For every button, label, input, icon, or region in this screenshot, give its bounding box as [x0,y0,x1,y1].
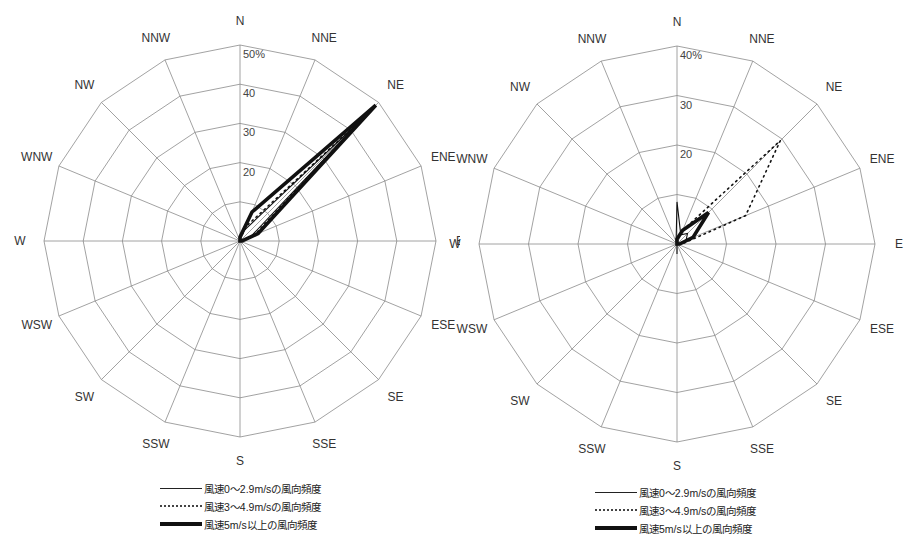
legend-item-low-speed: 風速0～2.9m/sの風向頻度 [595,483,756,501]
dotted-line-swatch [160,505,202,507]
grid-spoke [537,104,677,244]
direction-label: ENE [870,152,895,166]
grid-spoke [494,244,677,320]
grid-spoke [537,244,677,384]
grid-spoke [677,244,860,320]
grid-spoke [494,168,677,244]
thick-line-swatch [160,522,202,526]
thick-line-swatch [595,526,637,530]
legend-left: 風速0～2.9m/sの風向頻度 風速3～4.9m/sの風向頻度 風速5m/s以上… [160,479,321,533]
direction-label: SW [510,394,530,408]
grid-spoke [601,244,677,427]
grid-spoke [677,168,860,244]
legend-item-low-speed: 風速0～2.9m/sの風向頻度 [160,479,321,497]
direction-label: WNW [456,152,488,166]
direction-label: SSW [578,442,606,456]
legend-item-mid-speed: 風速3～4.9m/sの風向頻度 [160,497,321,515]
solid-line-swatch [595,492,637,493]
legend-label: 風速0～2.9m/sの風向頻度 [639,485,756,500]
radial-tick-label: 40% [680,49,702,61]
legend-label: 風速3～4.9m/sの風向頻度 [639,503,756,518]
dotted-line-swatch [595,509,637,511]
direction-label: NE [826,80,843,94]
grid-spoke [677,104,817,244]
legend-item-high-speed: 風速5m/s以上の風向頻度 [595,519,756,537]
grid-spoke [677,244,753,427]
direction-label: S [673,459,681,470]
direction-label: W [449,237,461,251]
direction-label: NW [510,80,531,94]
legend-item-mid-speed: 風速3～4.9m/sの風向頻度 [595,501,756,519]
grid-spoke [601,61,677,244]
solid-line-swatch [160,488,202,489]
radial-tick-label: 20 [680,148,692,160]
direction-label: ESE [870,322,894,336]
legend-label: 風速5m/s以上の風向頻度 [639,521,752,536]
legend-right: 風速0～2.9m/sの風向頻度 風速3～4.9m/sの風向頻度 風速5m/s以上… [595,483,756,537]
direction-label: SE [826,394,842,408]
legend-label: 風速0～2.9m/sの風向頻度 [204,481,321,496]
direction-label: WSW [457,322,488,336]
direction-label: E [895,237,903,251]
radial-tick-label: 30 [680,99,692,111]
wind-rose-right: 203040%NNNENEENEEESESESSESSSWSWWSWWWNWNW… [0,0,904,470]
direction-label: N [673,15,682,29]
direction-label: NNW [578,32,607,46]
direction-label: SSE [750,442,774,456]
legend-label: 風速5m/s以上の風向頻度 [204,517,317,532]
legend-label: 風速3～4.9m/sの風向頻度 [204,499,321,514]
legend-item-high-speed: 風速5m/s以上の風向頻度 [160,515,321,533]
direction-label: NNE [749,32,774,46]
grid-spoke [677,244,817,384]
